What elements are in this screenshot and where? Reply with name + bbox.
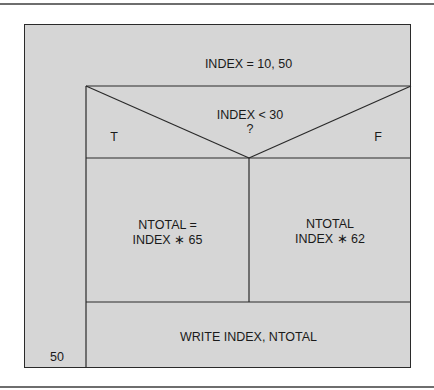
false-branch-line1: NTOTAL <box>249 217 411 232</box>
loop-end-label: 50 <box>42 350 72 365</box>
final-statement: WRITE INDEX, NTOTAL <box>86 330 411 345</box>
bottom-rule <box>0 386 434 388</box>
decision-question-mark: ? <box>170 122 330 137</box>
false-label: F <box>368 130 388 145</box>
false-branch-line2: INDEX ∗ 62 <box>249 232 411 247</box>
true-branch-line1: NTOTAL = <box>86 218 249 233</box>
true-branch-line2: INDEX ∗ 65 <box>86 233 249 248</box>
decision-condition: INDEX < 30 <box>170 108 330 123</box>
true-label: T <box>104 130 124 145</box>
loop-header: INDEX = 10, 50 <box>86 57 411 72</box>
